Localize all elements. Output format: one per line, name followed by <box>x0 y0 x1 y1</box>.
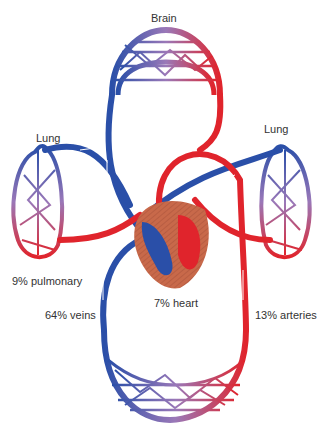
label-heart: 7% heart <box>154 297 198 309</box>
left-lung-capillaries <box>13 146 62 257</box>
heart <box>134 201 209 289</box>
brain-capillaries <box>112 30 220 95</box>
label-lung-right: Lung <box>264 123 288 135</box>
label-brain: Brain <box>151 12 177 24</box>
label-veins: 64% veins <box>45 309 96 321</box>
body-capillaries <box>104 330 246 420</box>
label-lung-left: Lung <box>36 132 60 144</box>
circulatory-diagram <box>0 0 323 429</box>
label-pulmonary: 9% pulmonary <box>12 275 82 287</box>
label-arteries: 13% arteries <box>255 309 317 321</box>
